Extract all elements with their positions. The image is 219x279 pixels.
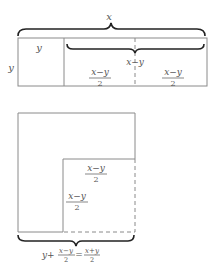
fraction-denominator: 2 [97,79,102,88]
top-figure: x x−y y y x−y 2 x−y 2 [7,11,207,88]
inner-side-fraction: x−y 2 [66,191,88,212]
middle-cell-fraction: x−y 2 [89,67,111,88]
fraction-numerator: x−y [91,67,110,77]
lhs-denominator: 2 [64,256,68,264]
outer-square [18,113,135,232]
formula-prefix: y+ [41,250,55,260]
rhs-numerator: x+y [85,247,100,255]
outer-brace-label: x [106,11,112,22]
fraction-denominator: 2 [74,203,79,212]
bottom-brace [18,235,134,246]
lhs-numerator: x−y [59,247,74,255]
right-cell-fraction: x−y 2 [162,67,184,88]
fraction-denominator: 2 [93,175,98,184]
fraction-numerator: x−y [164,67,183,77]
diagram-canvas: x x−y y y x−y 2 x−y 2 [0,0,219,279]
left-cell-label-y: y [35,42,42,53]
top-rectangle [18,38,207,86]
diagram: x x−y y y x−y 2 x−y 2 [0,0,219,279]
bottom-figure: x−y 2 x−y 2 y+ x−y 2 = x+y 2 [18,113,135,264]
rhs-denominator: 2 [90,256,94,264]
formula-equals: = [75,250,83,260]
fraction-numerator: x−y [68,191,87,201]
inner-brace-label: x−y [126,57,145,67]
bottom-formula: y+ x−y 2 = x+y 2 [41,247,100,264]
outer-brace [18,23,205,36]
inner-top-fraction: x−y 2 [85,163,107,184]
fraction-numerator: x−y [87,163,106,173]
side-label-y: y [7,62,14,73]
fraction-denominator: 2 [170,79,175,88]
